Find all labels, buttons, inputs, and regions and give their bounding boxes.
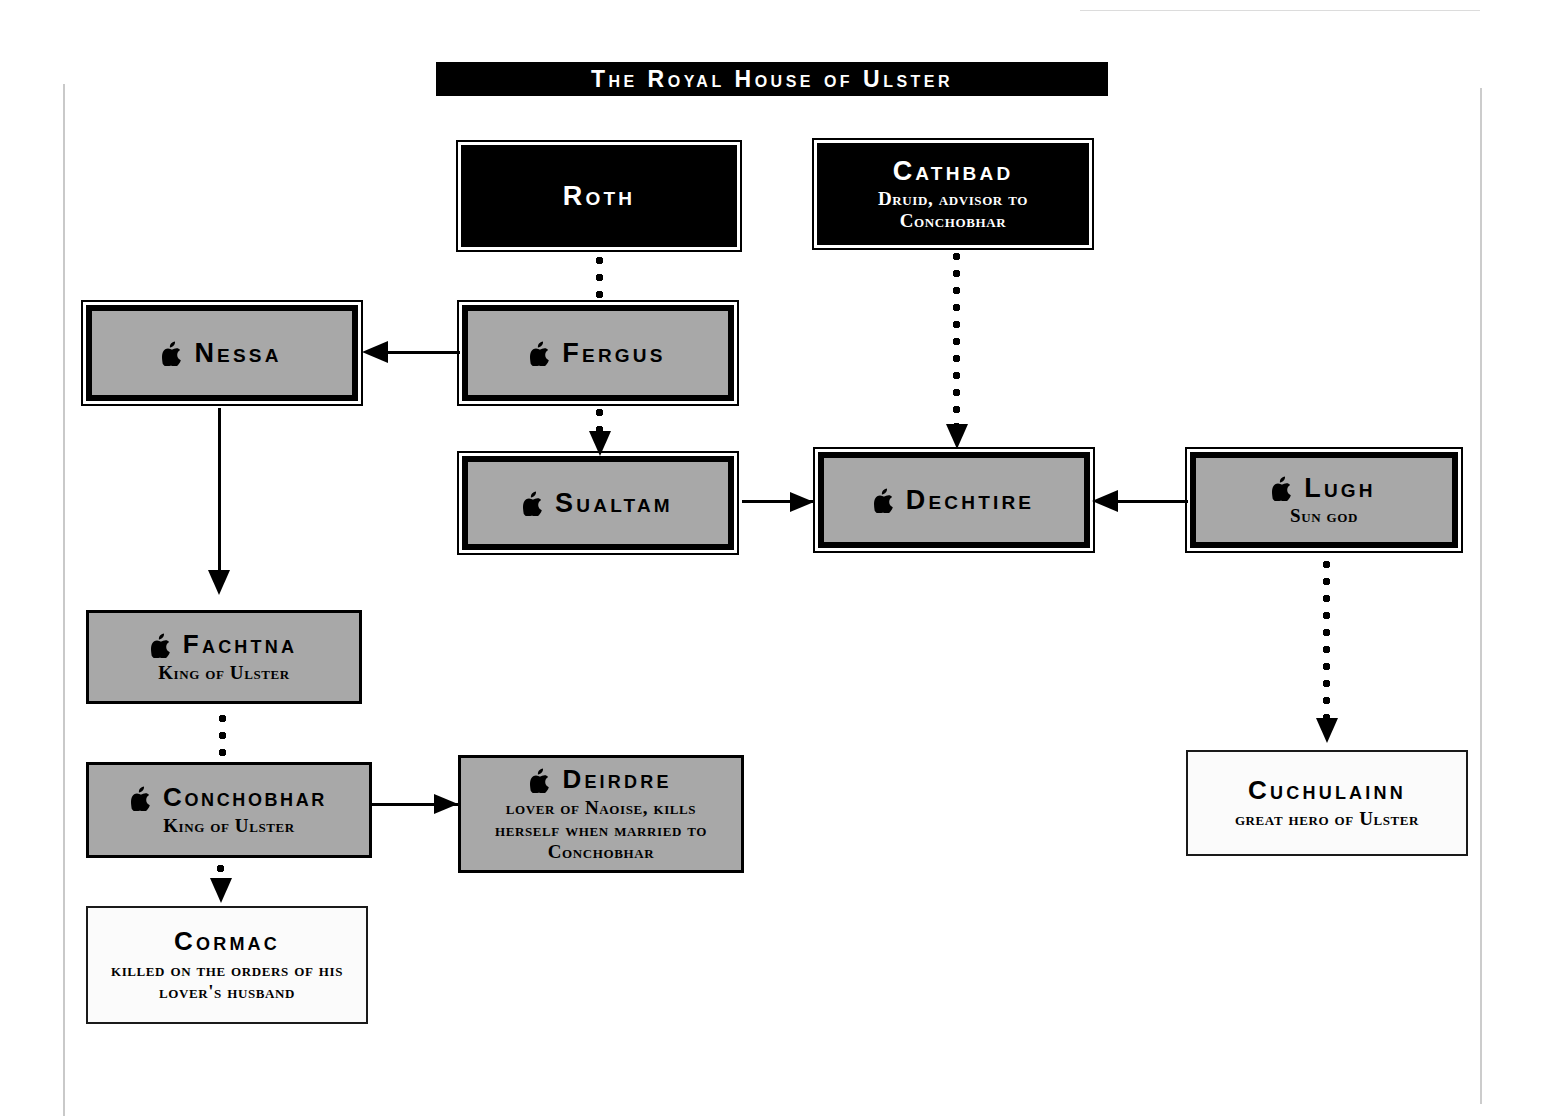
edge-fergus-nessa xyxy=(380,351,460,354)
edge-lugh-cuchulainn-arrowhead xyxy=(1316,718,1338,743)
node-fachtna-label: Fachtna xyxy=(183,630,297,659)
apple-icon xyxy=(131,786,151,811)
node-cathbad-subtitle-line2: Conchobhar xyxy=(894,210,1012,232)
node-dechtire-label: Dechtire xyxy=(906,485,1035,515)
node-roth-title: Roth xyxy=(563,181,635,211)
node-cormac-subtitle-line2: lover's husband xyxy=(153,981,301,1003)
node-deirdre-subtitle-line3: Conchobhar xyxy=(542,841,660,863)
node-lugh[interactable]: Lugh Sun god xyxy=(1190,452,1458,548)
node-deirdre-title: Deirdre xyxy=(530,765,671,794)
edge-conchobhar-deirdre-arrowhead xyxy=(434,794,458,814)
node-fergus-title: Fergus xyxy=(530,338,665,368)
node-deirdre[interactable]: Deirdre lover of Naoise, kills herself w… xyxy=(458,755,744,873)
edge-fachtna-conchobhar xyxy=(218,710,227,768)
node-fachtna-subtitle: King of Ulster xyxy=(152,662,296,684)
edge-cathbad-dechtire xyxy=(952,248,961,424)
node-deirdre-subtitle-line1: lover of Naoise, kills xyxy=(500,797,702,819)
edge-sualtam-dechtire-arrowhead xyxy=(790,492,814,512)
edge-roth-fergus xyxy=(595,252,604,308)
apple-icon xyxy=(874,488,894,513)
node-cathbad-subtitle-line1: Druid, advisor to xyxy=(872,188,1034,210)
node-cormac-title: Cormac xyxy=(174,927,280,956)
apple-icon xyxy=(151,633,171,658)
node-cormac-subtitle-line1: killed on the orders of his xyxy=(105,959,349,981)
node-conchobhar-title: Conchobhar xyxy=(131,783,327,812)
edge-fergus-sualtam-arrowhead xyxy=(589,431,611,456)
diagram-title: The Royal House of Ulster xyxy=(436,62,1108,96)
edge-conchobhar-cormac-arrowhead xyxy=(210,878,232,903)
node-dechtire[interactable]: Dechtire xyxy=(818,452,1090,548)
node-cormac[interactable]: Cormac killed on the orders of his lover… xyxy=(86,906,368,1024)
node-lugh-label: Lugh xyxy=(1304,473,1376,503)
node-fachtna[interactable]: Fachtna King of Ulster xyxy=(86,610,362,704)
node-lugh-subtitle: Sun god xyxy=(1284,505,1364,527)
node-deirdre-label: Deirdre xyxy=(562,765,671,794)
page-edge-right xyxy=(1480,88,1482,1104)
edge-nessa-fachtna-arrowhead xyxy=(208,570,230,595)
page-edge-top xyxy=(1080,10,1480,11)
apple-icon xyxy=(530,341,550,366)
edge-lugh-cuchulainn xyxy=(1322,556,1331,720)
node-cuchulainn[interactable]: Cuchulainn great hero of Ulster xyxy=(1186,750,1468,856)
node-conchobhar-subtitle: King of Ulster xyxy=(157,815,301,837)
node-dechtire-title: Dechtire xyxy=(874,485,1035,515)
node-nessa[interactable]: Nessa xyxy=(86,305,358,401)
apple-icon xyxy=(523,491,543,516)
node-conchobhar[interactable]: Conchobhar King of Ulster xyxy=(86,762,372,858)
edge-fergus-nessa-arrowhead xyxy=(362,341,388,363)
node-fachtna-title: Fachtna xyxy=(151,630,297,659)
diagram-canvas: The Royal House of Ulster Roth Cathbad D… xyxy=(0,0,1549,1116)
node-cuchulainn-subtitle: great hero of Ulster xyxy=(1229,808,1425,830)
node-sualtam[interactable]: Sualtam xyxy=(462,456,734,550)
node-cathbad[interactable]: Cathbad Druid, advisor to Conchobhar xyxy=(814,140,1092,248)
node-fergus-label: Fergus xyxy=(562,338,665,368)
node-deirdre-subtitle-line2: herself when married to xyxy=(489,819,713,841)
node-cathbad-title: Cathbad xyxy=(893,156,1014,186)
page-edge-left xyxy=(63,84,65,1116)
node-conchobhar-label: Conchobhar xyxy=(163,783,327,812)
node-sualtam-title: Sualtam xyxy=(523,488,673,518)
edge-cathbad-dechtire-arrowhead xyxy=(946,424,968,449)
apple-icon xyxy=(1272,476,1292,501)
node-fergus[interactable]: Fergus xyxy=(462,305,734,401)
apple-icon xyxy=(162,341,182,366)
node-sualtam-label: Sualtam xyxy=(555,488,673,518)
node-nessa-title: Nessa xyxy=(162,338,281,368)
apple-icon xyxy=(530,768,550,793)
edge-lugh-dechtire-arrowhead xyxy=(1092,490,1118,512)
node-nessa-label: Nessa xyxy=(194,338,281,368)
node-roth[interactable]: Roth xyxy=(458,142,740,250)
node-cuchulainn-title: Cuchulainn xyxy=(1248,776,1406,805)
edge-nessa-fachtna xyxy=(218,408,221,578)
node-lugh-title: Lugh xyxy=(1272,473,1376,503)
